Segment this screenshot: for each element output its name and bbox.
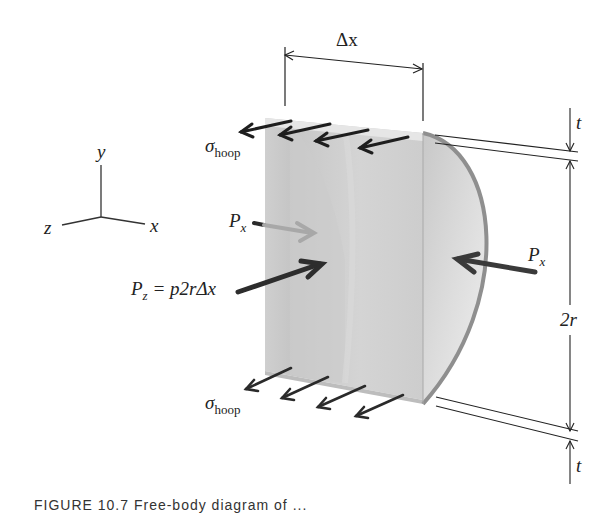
thickness-bottom-label: t [576, 456, 581, 475]
x-axis-label: x [150, 216, 158, 235]
y-axis-label: y [97, 142, 105, 161]
px-right-label: Px [528, 245, 545, 264]
coordinate-axes [62, 165, 145, 225]
pipe-segment-block [265, 118, 486, 404]
px-left-label: Px [229, 211, 246, 230]
thickness-top-label: t [576, 113, 581, 132]
z-axis-label: z [44, 218, 51, 237]
sigma-hoop-bottom-label: σhoop [205, 393, 240, 412]
delta-x-label: Δx [336, 30, 358, 49]
diameter-label: 2r [560, 310, 577, 329]
px-right-arrow [457, 254, 535, 272]
figure-caption: FIGURE 10.7 Free-body diagram of ... [34, 497, 307, 513]
delta-x-dimension [285, 47, 423, 121]
pz-label: Pz = p2rΔx [131, 279, 216, 298]
sigma-hoop-top-label: σhoop [205, 136, 240, 155]
